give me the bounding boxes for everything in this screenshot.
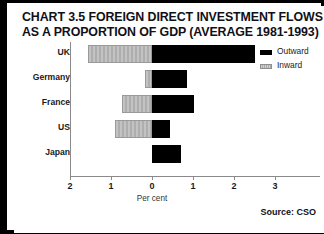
x-tick-label-pos3: 3 bbox=[265, 181, 285, 191]
legend-label-inward: Inward bbox=[277, 60, 302, 70]
legend-label-outward: Outward bbox=[277, 46, 309, 56]
x-tick-label-pos1: 1 bbox=[183, 181, 203, 191]
x-tick-label-neg1: 1 bbox=[101, 181, 121, 191]
legend-swatch-outward-icon bbox=[260, 50, 272, 55]
bar-outward-us bbox=[152, 120, 170, 138]
bar-inward-uk bbox=[88, 45, 152, 63]
chart-inner: CHART 3.5 FOREIGN DIRECT INVESTMENT FLOW… bbox=[14, 6, 324, 233]
chart-title-line-1: CHART 3.5 FOREIGN DIRECT INVESTMENT FLOW… bbox=[22, 10, 322, 25]
chart-title-line-2: AS A PROPORTION OF GDP (AVERAGE 1981-199… bbox=[22, 25, 322, 40]
chart-frame: CHART 3.5 FOREIGN DIRECT INVESTMENT FLOW… bbox=[0, 0, 324, 234]
bar-inward-us bbox=[115, 120, 152, 138]
category-label-japan: Japan bbox=[0, 147, 70, 157]
legend-swatch-inward-icon bbox=[260, 64, 272, 69]
bar-outward-japan bbox=[152, 145, 181, 163]
x-tick-label-pos2: 2 bbox=[224, 181, 244, 191]
chart-title: CHART 3.5 FOREIGN DIRECT INVESTMENT FLOW… bbox=[22, 10, 322, 39]
bar-outward-uk bbox=[152, 45, 255, 63]
x-axis-line bbox=[70, 176, 320, 177]
x-tick-neg2 bbox=[70, 176, 71, 180]
category-label-germany: Germany bbox=[0, 72, 70, 82]
chart-legend: Outward Inward bbox=[260, 46, 324, 74]
bar-outward-france bbox=[152, 95, 194, 113]
x-axis-label: Per cent bbox=[112, 194, 192, 203]
x-tick-neg1 bbox=[111, 176, 112, 180]
x-tick-pos3 bbox=[275, 176, 276, 180]
category-label-france: France bbox=[0, 97, 70, 107]
category-label-us: US bbox=[0, 122, 70, 132]
x-tick-zero bbox=[152, 176, 153, 180]
bar-inward-germany bbox=[145, 70, 152, 88]
bar-outward-germany bbox=[152, 70, 187, 88]
x-tick-label-neg2: 2 bbox=[60, 181, 80, 191]
legend-item-outward: Outward bbox=[260, 46, 324, 58]
x-tick-pos1 bbox=[193, 176, 194, 180]
category-label-uk: UK bbox=[0, 47, 70, 57]
y-axis-line bbox=[70, 42, 71, 176]
legend-item-inward: Inward bbox=[260, 60, 324, 72]
x-tick-label-zero: 0 bbox=[142, 181, 162, 191]
source-note: Source: CSO bbox=[260, 207, 316, 217]
bar-inward-france bbox=[122, 95, 152, 113]
x-tick-pos2 bbox=[234, 176, 235, 180]
